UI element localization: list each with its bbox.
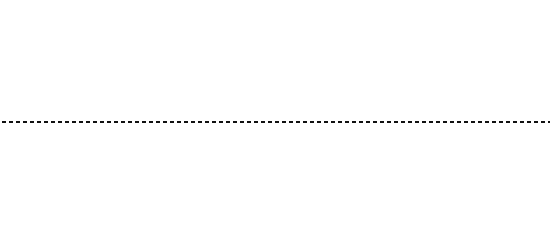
signal-curve-top xyxy=(0,0,552,112)
signal-curve-bottom xyxy=(0,128,552,240)
figure-canvas xyxy=(0,0,552,240)
digit-panel-bottom xyxy=(0,128,552,240)
axis-dashed-line xyxy=(2,121,550,123)
panel-separator-axis xyxy=(0,117,552,127)
digit-panel-top xyxy=(0,0,552,112)
